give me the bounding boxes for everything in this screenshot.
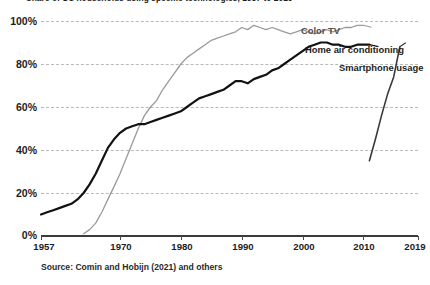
source-note: Source: Comin and Hobijn (2021) and othe… bbox=[41, 262, 222, 272]
leader-line-color-tv bbox=[363, 25, 371, 27]
series-layer bbox=[0, 0, 430, 285]
series-label-home-air-conditioning[interactable]: Home air conditioning bbox=[305, 44, 404, 55]
series-label-smartphone-usage[interactable]: Smartphone usage bbox=[339, 62, 423, 73]
chart-container: Share of US households using specific te… bbox=[0, 0, 430, 285]
series-line-home-air-conditioning bbox=[41, 43, 369, 215]
series-label-color-tv[interactable]: Color TV bbox=[301, 25, 340, 36]
